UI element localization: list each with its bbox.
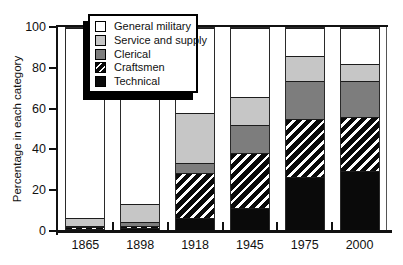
bar-segment-clerical-1945 [231,125,269,153]
bar-1975 [285,27,325,231]
y-tick-0 [49,230,56,232]
x-tick-label-1975: 1975 [278,239,332,252]
bar-segment-technical-2000 [341,171,379,230]
y-tick-label-20: 20 [14,184,46,197]
x-tick-label-1918: 1918 [168,239,222,252]
bar-segment-technical-1945 [231,208,269,230]
x-tick-label-1945: 1945 [223,239,277,252]
legend-swatch-technical-icon [95,76,106,87]
bar-segment-craftsmen-1865 [66,227,104,229]
y-tick-label-100: 100 [14,21,46,34]
x-minor-tick-1 [112,222,114,231]
bar-segment-service-and-supply-1918 [176,113,214,164]
y-tick-60 [49,108,56,110]
x-minor-tick-5 [331,222,333,231]
legend-label-craftsmen: Craftsmen [114,62,165,73]
x-tick-label-1865: 1865 [58,239,112,252]
legend-swatch-general-military-icon [95,21,106,32]
bar-segment-clerical-1865 [66,226,104,227]
legend-label-service-and-supply: Service and supply [114,35,207,46]
bar-segment-craftsmen-1945 [231,153,269,208]
stacked-bar-chart-figure: Percentage in each category 186518981918… [0,0,403,265]
bar-segment-clerical-1918 [176,163,214,173]
y-tick-40 [49,148,56,150]
bar-segment-craftsmen-1898 [121,226,159,228]
legend-swatch-craftsmen-icon [95,62,106,73]
legend-swatch-service-and-supply-icon [95,35,106,46]
bar-segment-clerical-1975 [286,81,324,119]
bar-segment-craftsmen-2000 [341,117,379,172]
y-tick-20 [49,189,56,191]
plot-frame-right [386,27,387,231]
x-axis [56,230,392,233]
legend-item-clerical: Clerical [95,48,194,61]
bar-segment-service-and-supply-1865 [66,218,104,226]
x-minor-tick-3 [222,222,224,231]
bar-segment-clerical-2000 [341,81,379,117]
bar-segment-technical-1975 [286,177,324,230]
legend-item-general-military: General military [95,20,194,33]
bar-segment-general-military-2000 [341,28,379,64]
bar-segment-service-and-supply-2000 [341,64,379,80]
legend-item-technical: Technical [95,75,194,88]
bar-1945 [230,27,270,231]
y-tick-label-80: 80 [14,62,46,75]
x-minor-tick-4 [276,222,278,231]
y-tick-100 [49,26,56,28]
bar-segment-general-military-1945 [231,28,269,97]
bar-segment-craftsmen-1975 [286,119,324,178]
legend-label-general-military: General military [114,21,191,32]
x-minor-tick-2 [167,222,169,231]
y-tick-label-0: 0 [14,225,46,238]
legend-item-craftsmen: Craftsmen [95,61,194,74]
y-tick-label-60: 60 [14,103,46,116]
legend-item-service-and-supply: Service and supply [95,34,194,47]
bar-segment-service-and-supply-1945 [231,97,269,125]
legend-label-technical: Technical [114,76,160,87]
bar-segment-general-military-1975 [286,28,324,56]
y-axis [56,25,58,235]
bar-segment-technical-1918 [176,218,214,230]
bar-2000 [340,27,380,231]
bar-segment-service-and-supply-1975 [286,56,324,80]
legend-swatch-clerical-icon [95,49,106,60]
legend: General militaryService and supplyCleric… [88,14,198,93]
legend-label-clerical: Clerical [114,49,151,60]
y-tick-80 [49,67,56,69]
x-tick-label-1898: 1898 [113,239,167,252]
x-tick-label-2000: 2000 [333,239,387,252]
bar-segment-service-and-supply-1898 [121,204,159,222]
y-tick-label-40: 40 [14,143,46,156]
bar-segment-clerical-1898 [121,222,159,226]
bar-segment-craftsmen-1918 [176,173,214,217]
